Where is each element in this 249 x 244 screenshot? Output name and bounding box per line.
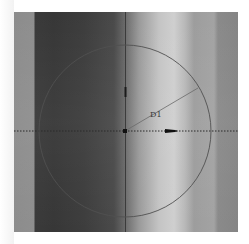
vertical-constraint-icon [125,87,127,97]
sketch-overlay[interactable]: D1 [0,0,249,244]
center-point[interactable] [123,129,127,133]
dimension-label-d1[interactable]: D1 [150,110,162,119]
arrow-right-icon [165,129,178,133]
